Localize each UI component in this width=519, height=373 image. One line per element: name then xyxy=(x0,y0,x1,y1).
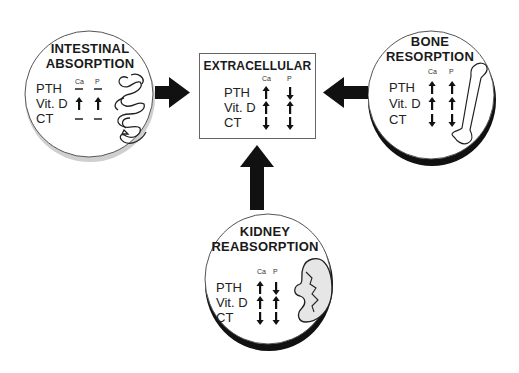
intestinal-vitd-p-up-arrow-icon xyxy=(95,97,102,110)
bone-pth-ca-up-arrow-icon xyxy=(429,81,436,94)
center-ct-p-down-arrow-icon xyxy=(287,117,294,130)
bone-vitd-p-up-arrow-icon xyxy=(449,97,456,110)
bone-pth-p-up-arrow-icon xyxy=(449,81,456,94)
indicator-arrows xyxy=(0,0,519,373)
kidney-ct-p-down-arrow-icon xyxy=(273,312,280,325)
bone-ct-p-down-arrow-icon xyxy=(449,114,456,127)
kidney-vitd-p-up-arrow-icon xyxy=(273,296,280,309)
center-ct-ca-down-arrow-icon xyxy=(263,117,270,130)
intestinal-vitd-ca-up-arrow-icon xyxy=(76,97,83,110)
bone-ct-ca-down-arrow-icon xyxy=(429,114,436,127)
bone-vitd-ca-up-arrow-icon xyxy=(429,97,436,110)
kidney-pth-p-down-arrow-icon xyxy=(273,282,280,295)
center-pth-p-down-arrow-icon xyxy=(287,87,294,100)
kidney-ct-ca-down-arrow-icon xyxy=(257,312,264,325)
center-pth-ca-up-arrow-icon xyxy=(263,86,270,99)
center-vitd-ca-up-arrow-icon xyxy=(263,101,270,114)
center-vitd-p-up-arrow-icon xyxy=(287,101,294,114)
kidney-vitd-ca-up-arrow-icon xyxy=(257,296,264,309)
kidney-pth-ca-up-arrow-icon xyxy=(257,281,264,294)
